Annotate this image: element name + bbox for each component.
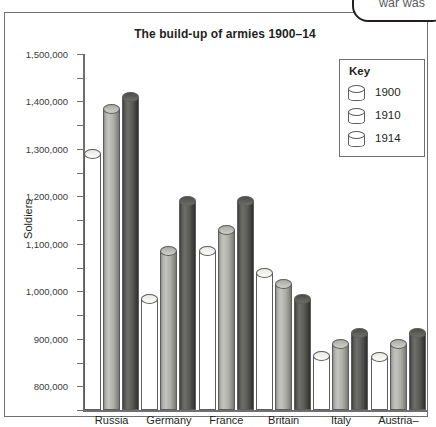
bar-cylinder-body <box>409 333 426 410</box>
bar-cylinder-top <box>409 328 426 338</box>
bar-group: Germany <box>140 54 197 410</box>
y-axis-tick-label: 900,000 <box>34 333 68 344</box>
bar-cylinder-top <box>313 351 330 361</box>
y-axis-tick-label: 1,100,000 <box>26 238 68 249</box>
bar-cylinder-top <box>390 339 407 349</box>
bar-cylinder-top <box>84 149 101 159</box>
bar-italy-1900 <box>313 351 330 410</box>
legend-box: Key 190019101914 <box>339 59 425 157</box>
y-axis-title: Soldiers <box>22 174 34 264</box>
bar-austria-hungary-1914 <box>409 328 426 410</box>
legend-label: 1914 <box>375 132 401 144</box>
legend-swatch-icon <box>348 108 365 125</box>
bar-russia-1900 <box>84 149 101 410</box>
legend-label: 1910 <box>375 109 401 121</box>
bar-germany-1900 <box>141 294 158 410</box>
bar-cylinder-top <box>294 294 311 304</box>
x-axis-category-label: Austria–Hungary <box>370 414 427 427</box>
callout-text: war was <box>362 0 436 10</box>
x-axis-category-label: France <box>198 414 255 427</box>
bar-cylinder-body <box>141 299 158 410</box>
bar-russia-1910 <box>103 104 120 410</box>
x-axis-category-label: Britain <box>255 414 312 427</box>
bar-cylinder-top <box>371 352 388 362</box>
bar-cylinder-body <box>313 356 330 410</box>
x-axis-line <box>83 410 427 412</box>
legend-title: Key <box>349 65 370 77</box>
bar-cylinder-top <box>141 294 158 304</box>
bar-germany-1914 <box>179 196 196 410</box>
bar-cylinder-top <box>103 104 120 114</box>
legend-label: 1900 <box>375 86 401 98</box>
chart-title: The build-up of armies 1900–14 <box>75 27 375 41</box>
bar-group: Britain <box>255 54 312 410</box>
bar-britain-1914 <box>294 294 311 410</box>
y-axis-tick-label: 1,300,000 <box>26 143 68 154</box>
legend-swatch-icon <box>348 85 365 102</box>
chart-frame: The build-up of armies 1900–14 Soldiers … <box>4 12 428 417</box>
bar-italy-1910 <box>332 339 349 410</box>
bar-britain-1900 <box>256 268 273 410</box>
bar-group: Russia <box>83 54 140 410</box>
legend-swatch-icon <box>348 131 365 148</box>
bar-cylinder-top <box>218 225 235 235</box>
legend-swatch-top <box>348 131 365 139</box>
y-axis-tick-label: 1,000,000 <box>26 286 68 297</box>
legend-swatch-top <box>348 85 365 93</box>
legend-swatch-top <box>348 108 365 116</box>
bar-cylinder-top <box>256 268 273 278</box>
bar-cylinder-body <box>160 251 177 410</box>
y-axis-tick-label: 1,200,000 <box>26 191 68 202</box>
y-axis-tick: 0 <box>77 410 83 411</box>
bar-italy-1914 <box>351 328 368 410</box>
y-axis-tick-label: 1,500,000 <box>26 49 68 60</box>
bar-britain-1910 <box>275 279 292 410</box>
bar-group: France <box>198 54 255 410</box>
bar-cylinder-body <box>294 299 311 410</box>
bar-austria-hungary-1900 <box>371 352 388 410</box>
bar-cylinder-body <box>275 284 292 410</box>
bar-cylinder-body <box>332 344 349 410</box>
bar-cylinder-body <box>179 201 196 410</box>
x-axis-category-label: Germany <box>140 414 197 427</box>
bar-france-1914 <box>237 196 254 410</box>
bar-cylinder-body <box>84 154 101 410</box>
bar-cylinder-body <box>199 251 216 410</box>
x-axis-category-label: Russia <box>83 414 140 427</box>
bar-germany-1910 <box>160 246 177 410</box>
chart-screenshot: The build-up of armies 1900–14 Soldiers … <box>0 0 436 427</box>
y-axis-tick-label: 800,000 <box>34 381 68 392</box>
bar-cylinder-body <box>256 273 273 410</box>
bar-cylinder-body <box>103 109 120 410</box>
bar-cylinder-body <box>122 97 139 410</box>
bar-cylinder-body <box>371 357 388 410</box>
bar-russia-1914 <box>122 92 139 410</box>
y-axis-tick-label: 1,400,000 <box>26 96 68 107</box>
bar-cylinder-top <box>122 92 139 102</box>
bar-cylinder-body <box>390 344 407 410</box>
bar-cylinder-body <box>351 333 368 410</box>
bar-austria-hungary-1910 <box>390 339 407 410</box>
bar-france-1910 <box>218 225 235 410</box>
bar-cylinder-body <box>237 201 254 410</box>
x-axis-category-label: Italy <box>312 414 369 427</box>
bar-france-1900 <box>199 246 216 410</box>
bar-cylinder-body <box>218 230 235 410</box>
